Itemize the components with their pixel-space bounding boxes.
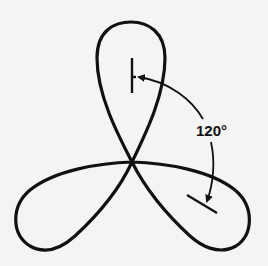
angle-label: 120° — [196, 122, 227, 139]
left-lobe — [16, 162, 132, 250]
right-lobe — [132, 162, 249, 250]
bottom-right-axis-marker — [187, 195, 217, 213]
rotation-arc-lower — [207, 142, 213, 201]
rotation-arc-upper — [139, 77, 203, 119]
trefoil-diagram: 120° — [0, 0, 268, 266]
